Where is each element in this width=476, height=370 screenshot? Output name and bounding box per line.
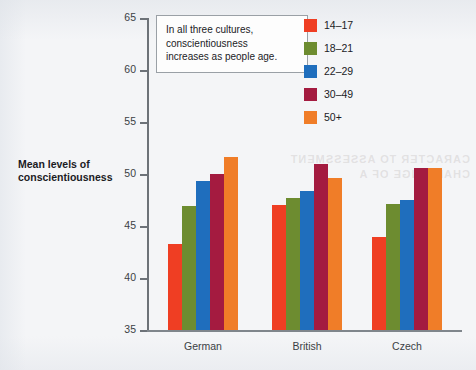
y-axis-tick-label: 35 xyxy=(112,323,136,335)
bar xyxy=(224,157,238,330)
y-axis-tick-label: 50 xyxy=(112,167,136,179)
bar xyxy=(196,181,210,330)
chart-legend: 14–1718–2122–2930–4950+ xyxy=(304,18,353,124)
y-axis-tick-60 xyxy=(140,70,148,72)
legend-item: 18–21 xyxy=(304,41,353,55)
bar xyxy=(372,237,386,330)
x-axis-label-british: British xyxy=(262,340,352,352)
bar xyxy=(428,168,442,330)
annotation-callout: In all three cultures, conscientiousness… xyxy=(156,15,308,73)
annotation-line-3: increases as people age. xyxy=(166,50,298,64)
legend-label: 14–17 xyxy=(324,19,353,31)
bar xyxy=(272,205,286,330)
legend-swatch-icon xyxy=(304,111,317,124)
bar-group-czech xyxy=(372,18,442,330)
legend-label: 22–29 xyxy=(324,65,353,77)
y-axis-tick-label: 60 xyxy=(112,63,136,75)
legend-label: 50+ xyxy=(324,111,342,123)
annotation-line-2: conscientiousness xyxy=(166,37,298,51)
y-axis-tick-55 xyxy=(140,122,148,124)
y-axis-tick-label: 65 xyxy=(112,11,136,23)
y-axis-tick-label: 45 xyxy=(112,219,136,231)
legend-swatch-icon xyxy=(304,42,317,55)
legend-swatch-icon xyxy=(304,88,317,101)
bar xyxy=(286,198,300,330)
bar xyxy=(300,191,314,330)
legend-swatch-icon xyxy=(304,19,317,32)
legend-label: 18–21 xyxy=(324,42,353,54)
bar xyxy=(414,168,428,330)
legend-item: 14–17 xyxy=(304,18,353,32)
legend-item: 22–29 xyxy=(304,64,353,78)
y-axis-tick-50 xyxy=(140,174,148,176)
legend-item: 30–49 xyxy=(304,87,353,101)
legend-swatch-icon xyxy=(304,65,317,78)
bar xyxy=(182,206,196,330)
x-axis-label-german: German xyxy=(158,340,248,352)
y-axis-tick-label: 40 xyxy=(112,271,136,283)
y-axis-tick-label: 55 xyxy=(112,115,136,127)
bar xyxy=(210,174,224,330)
legend-label: 30–49 xyxy=(324,88,353,100)
bar xyxy=(400,200,414,330)
legend-item: 50+ xyxy=(304,110,353,124)
y-axis-tick-65 xyxy=(140,18,148,20)
y-axis-tick-40 xyxy=(140,278,148,280)
y-axis-tick-45 xyxy=(140,226,148,228)
bar xyxy=(328,178,342,330)
bar xyxy=(314,164,328,330)
bar xyxy=(168,244,182,330)
x-axis-line xyxy=(147,330,462,332)
x-axis-label-czech: Czech xyxy=(362,340,452,352)
bar-chart-figure: Mean levels of conscientiousness 6560555… xyxy=(0,0,476,370)
annotation-line-1: In all three cultures, xyxy=(166,23,298,37)
bar xyxy=(386,204,400,330)
